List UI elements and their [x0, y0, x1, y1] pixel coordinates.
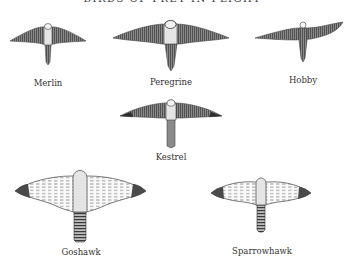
label-merlin: Merlin [34, 78, 63, 88]
label-peregrine: Peregrine [150, 77, 192, 87]
peregrine-silhouette [113, 21, 229, 72]
kestrel-silhouette [120, 100, 222, 148]
merlin-silhouette [10, 24, 86, 66]
sparrowhawk-silhouette [211, 178, 311, 232]
label-hobby: Hobby [289, 75, 317, 85]
hobby-silhouette [255, 22, 343, 62]
label-goshawk: Goshawk [61, 247, 100, 257]
label-sparrowhawk: Sparrowhawk [232, 246, 292, 256]
goshawk-silhouette [15, 171, 146, 243]
label-kestrel: Kestrel [156, 152, 187, 162]
bird-illustrations [0, 0, 345, 260]
